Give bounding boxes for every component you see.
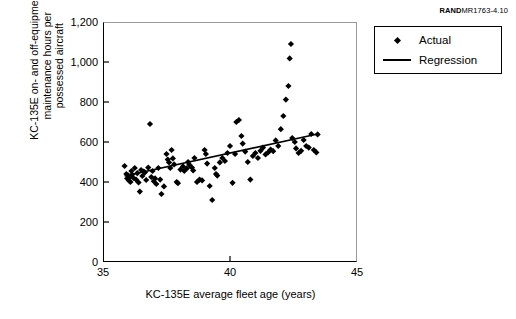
x-tick-label: 40 — [210, 266, 250, 278]
plot-data-layer — [103, 22, 357, 262]
y-tick-label: 200 — [58, 216, 98, 228]
report-code: MR1763-4.10 — [461, 6, 508, 15]
legend-item-regression: Regression — [375, 50, 501, 70]
y-tick-label: 600 — [58, 136, 98, 148]
diamond-marker-icon — [375, 38, 419, 43]
y-tick-label: 1,000 — [58, 56, 98, 68]
report-id: RANDMR1763-4.10 — [439, 6, 508, 16]
y-tick-label: 800 — [58, 96, 98, 108]
x-tick-label: 45 — [337, 266, 377, 278]
legend-item-actual: Actual — [375, 30, 501, 50]
x-axis-title: KC-135E average fleet age (years) — [103, 288, 358, 301]
x-axis-tick-labels: 354045 — [103, 266, 357, 282]
scatter-points-actual — [121, 41, 320, 203]
y-tick-label: 400 — [58, 176, 98, 188]
line-segment-icon — [375, 59, 419, 61]
x-tick-label: 35 — [83, 266, 123, 278]
y-tick-label: 1,200 — [58, 16, 98, 28]
regression-line — [125, 134, 318, 176]
rand-brand-label: RAND — [439, 6, 461, 15]
legend-label-regression: Regression — [419, 54, 477, 67]
legend-box: Actual Regression — [374, 26, 502, 74]
chart-figure: RANDMR1763-4.10 KC-135E on- and off-equi… — [0, 0, 516, 319]
y-axis-tick-labels: 02004006008001,0001,200 — [52, 22, 98, 262]
legend-label-actual: Actual — [419, 34, 451, 47]
